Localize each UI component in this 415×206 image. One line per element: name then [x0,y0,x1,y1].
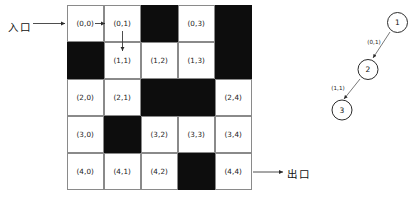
exit-label: 出口 [287,166,310,181]
maze-cell-open: (3,0) [67,116,105,154]
maze-cell-label: (0,4) [224,19,242,28]
maze-cell-open: (3,2) [141,116,179,154]
maze-cell-wall: (2,3) [178,79,216,117]
maze-cell-open: (4,2) [141,153,179,191]
maze-cell-wall: (4,3) [178,153,216,191]
maze-cell-label: (2,2) [150,93,168,102]
maze-cell-label: (0,1) [113,19,131,28]
tree-node-2 [358,60,378,80]
maze-cell-open: (2,1) [104,79,142,117]
maze-cell-label: (3,3) [187,130,205,139]
maze-cell-label: (0,0) [76,19,94,28]
maze-cell-label: (2,1) [113,93,131,102]
tree-edge-label-2-3: (1,1) [331,85,344,91]
maze-cell-open: (3,4) [215,116,253,154]
tree-node-1-label: 1 [395,18,400,27]
maze-cell-label: (4,4) [224,167,242,176]
maze-cell-label: (2,3) [187,93,205,102]
maze-cell-label: (1,3) [187,56,205,65]
maze-cell-label: (1,4) [224,56,242,65]
tree-node-1 [388,13,408,33]
maze-cell-label: (4,0) [76,167,94,176]
maze-cell-label: (3,1) [113,130,131,139]
maze-cell-label: (0,2) [150,19,168,28]
maze-cell-label: (3,0) [76,130,94,139]
maze-cell-open: (4,1) [104,153,142,191]
maze-cell-label: (1,2) [150,56,168,65]
maze-cell-label: (2,0) [76,93,94,102]
maze-cell-open: (1,1) [104,42,142,80]
tree-node-2-label: 2 [366,65,371,74]
maze-cell-open: (0,0) [67,5,105,43]
tree-edge-label-1-2: (0,1) [367,39,380,45]
maze-cell-open: (3,3) [178,116,216,154]
maze-cell-label: (0,3) [187,19,205,28]
maze-cell-wall: (1,4) [215,42,253,80]
maze-grid: (0,0)(0,1)(0,2)(0,3)(0,4)(1,0)(1,1)(1,2)… [67,5,252,190]
maze-cell-open: (2,0) [67,79,105,117]
tree-edge-1-2 [373,32,390,58]
maze-cell-wall: (3,1) [104,116,142,154]
tree-edge-2-3 [344,79,360,99]
maze-cell-wall: (2,2) [141,79,179,117]
maze-cell-open: (4,4) [215,153,253,191]
tree-node-3-label: 3 [340,106,345,115]
maze-cell-open: (1,2) [141,42,179,80]
maze-cell-label: (4,2) [150,167,168,176]
maze-cell-label: (4,1) [113,167,131,176]
maze-cell-label: (4,3) [187,167,205,176]
maze-cell-open: (1,3) [178,42,216,80]
maze-cell-wall: (0,4) [215,5,253,43]
maze-cell-label: (1,0) [76,56,94,65]
entrance-label: 入口 [8,19,31,34]
maze-cell-label: (1,1) [113,56,131,65]
maze-cell-label: (3,2) [150,130,168,139]
maze-cell-label: (3,4) [224,130,242,139]
maze-cell-wall: (0,2) [141,5,179,43]
maze-cell-wall: (1,0) [67,42,105,80]
maze-cell-open: (4,0) [67,153,105,191]
maze-cell-open: (0,3) [178,5,216,43]
tree-node-3 [332,100,352,120]
maze-cell-open: (0,1) [104,5,142,43]
maze-cell-open: (2,4) [215,79,253,117]
maze-cell-label: (2,4) [224,93,242,102]
